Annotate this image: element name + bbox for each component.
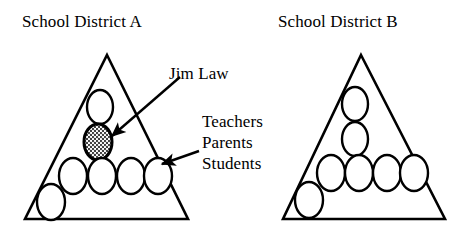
student-node	[117, 158, 145, 194]
student-node	[400, 155, 428, 191]
outside-node	[37, 184, 65, 220]
arrow-to-groups	[162, 151, 199, 164]
student-node	[317, 155, 345, 191]
parent-node	[342, 122, 368, 156]
student-node	[59, 158, 87, 194]
student-node	[345, 155, 373, 191]
student-node	[373, 155, 401, 191]
jim-law-node	[84, 124, 112, 160]
teacher-node	[87, 90, 113, 124]
figure-canvas: School District A School District B Jim …	[0, 0, 463, 235]
student-node	[88, 158, 116, 194]
teacher-node	[342, 87, 368, 121]
diagram-artwork	[0, 0, 463, 235]
node-group	[37, 87, 428, 220]
outside-node	[295, 182, 323, 218]
student-node	[144, 158, 172, 194]
